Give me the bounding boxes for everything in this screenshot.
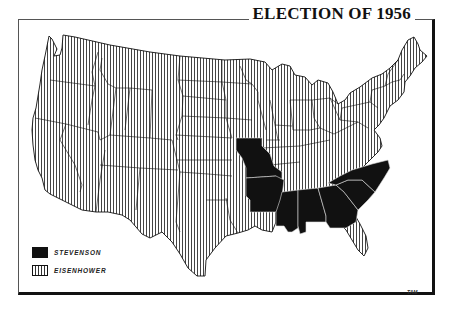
legend-label: STEVENSON: [54, 249, 101, 256]
legend-item-eisenhower: EISENHOWER: [32, 263, 106, 277]
legend: STEVENSON EISENHOWER: [32, 245, 106, 281]
legend-label: EISENHOWER: [54, 267, 106, 274]
map-title: ELECTION OF 1956: [249, 4, 415, 24]
striped-swatch-icon: [32, 265, 48, 276]
eisenhower-region: [32, 35, 427, 276]
solid-black-swatch-icon: [32, 247, 48, 258]
artist-signature: TAM: [407, 289, 417, 295]
legend-item-stevenson: STEVENSON: [32, 245, 106, 259]
